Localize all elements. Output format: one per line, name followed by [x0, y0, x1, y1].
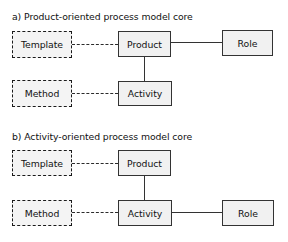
connector-activity-b-role-b — [172, 212, 222, 213]
node-label: Template — [21, 158, 63, 169]
node-label: Role — [238, 38, 258, 49]
node-product-b[interactable]: Product — [118, 150, 171, 176]
process-model-diagram: a) Product-oriented process model core T… — [0, 0, 288, 242]
node-template-a[interactable]: Template — [12, 31, 72, 58]
node-product-a[interactable]: Product — [118, 31, 171, 57]
connector-product-a-activity-a — [144, 57, 145, 81]
node-label: Product — [127, 158, 162, 169]
connector-method-a-activity-a — [72, 93, 118, 94]
node-template-b[interactable]: Template — [12, 150, 72, 176]
node-role-b[interactable]: Role — [222, 200, 274, 226]
node-label: Role — [238, 208, 258, 219]
connector-product-a-role-a — [171, 42, 222, 43]
section-b-title: b) Activity-oriented process model core — [12, 131, 192, 142]
node-label: Method — [25, 208, 60, 219]
node-method-a[interactable]: Method — [12, 80, 72, 107]
section-a-title: a) Product-oriented process model core — [12, 11, 193, 22]
node-label: Activity — [128, 208, 162, 219]
node-role-a[interactable]: Role — [222, 30, 273, 56]
connector-template-b-product-b — [72, 163, 118, 164]
node-method-b[interactable]: Method — [12, 200, 72, 226]
connector-method-b-activity-b — [72, 212, 118, 213]
connector-template-a-product-a — [72, 44, 118, 45]
node-label: Product — [127, 39, 162, 50]
node-label: Method — [25, 88, 60, 99]
node-label: Template — [21, 39, 63, 50]
node-label: Activity — [128, 88, 162, 99]
node-activity-a[interactable]: Activity — [118, 81, 172, 106]
connector-product-b-activity-b — [144, 176, 145, 200]
node-activity-b[interactable]: Activity — [118, 200, 172, 226]
